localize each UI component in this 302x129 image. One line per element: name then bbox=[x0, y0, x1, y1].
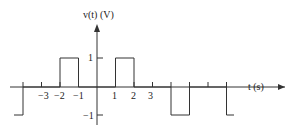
x-tick-label: −2 bbox=[54, 90, 65, 101]
x-tick-label: 2 bbox=[131, 90, 136, 101]
t-axis-arrow-icon bbox=[278, 84, 285, 90]
signal-plot: −3 −2 −1 1 2 3 1 −1 v(t) (V) t (s) bbox=[0, 0, 302, 129]
x-tick-label: 3 bbox=[148, 90, 153, 101]
x-tick-label: −1 bbox=[73, 90, 84, 101]
v-axis-arrow-icon bbox=[94, 24, 100, 32]
x-tick-label: 1 bbox=[112, 90, 117, 101]
y-tick-label: 1 bbox=[88, 52, 93, 63]
y-tick-label: −1 bbox=[83, 110, 94, 121]
y-axis-label: v(t) (V) bbox=[83, 9, 114, 21]
x-tick-label: −3 bbox=[38, 90, 49, 101]
x-axis-label: t (s) bbox=[248, 81, 264, 93]
